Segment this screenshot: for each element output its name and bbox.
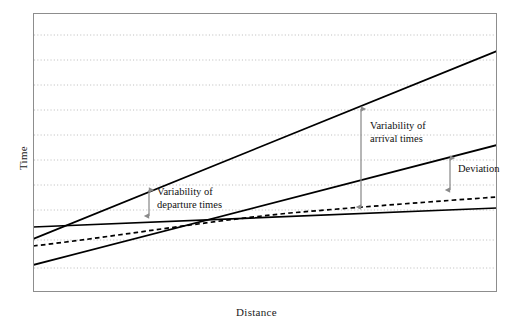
annotation-departure-line-1: Variability of (157, 186, 222, 199)
chart-canvas (0, 0, 513, 329)
annotation-departure-variability: Variability of departure times (157, 186, 222, 211)
annotation-departure-line-2: departure times (157, 199, 222, 212)
plot-background (34, 14, 497, 292)
x-axis-label: Distance (0, 306, 513, 318)
annotation-arrival-line-2: arrival times (370, 133, 426, 146)
annotation-deviation: Deviation (458, 163, 499, 176)
y-axis-label: Time (17, 128, 29, 188)
annotation-arrival-line-1: Variability of (370, 120, 426, 133)
figure-container: Time Distance Variability of departure t… (0, 0, 513, 329)
annotation-arrival-variability: Variability of arrival times (370, 120, 426, 145)
